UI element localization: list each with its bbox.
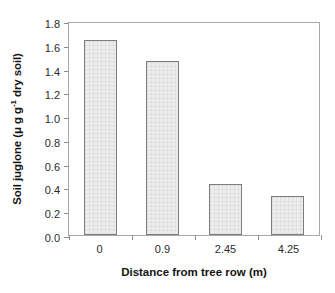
x-axis-tick-label: 0 <box>68 243 131 255</box>
y-axis-tick-label: 0.6 <box>45 161 60 173</box>
x-axis-tick <box>258 235 259 240</box>
y-axis-tick-label: 1.8 <box>45 18 60 30</box>
x-axis-tick <box>132 235 133 240</box>
x-axis-title: Distance from tree row (m) <box>68 266 320 278</box>
x-axis-tick <box>195 235 196 240</box>
y-axis-tick-label: 0.8 <box>45 137 60 149</box>
y-axis-tick-label: 0.4 <box>45 184 60 196</box>
x-axis-tick-label: 2.45 <box>194 243 257 255</box>
y-axis-title-exponent: -1 <box>9 100 18 107</box>
y-axis-tick-label: 1.4 <box>45 66 60 78</box>
x-axis-tick-labels: 00.92.454.25 <box>68 243 320 255</box>
y-axis-tick-label: 0.2 <box>45 208 60 220</box>
bar-slot <box>69 23 132 235</box>
x-axis-tick-label: 0.9 <box>131 243 194 255</box>
bar-2.45[interactable] <box>209 184 242 235</box>
y-axis-tick-label: 1.2 <box>45 89 60 101</box>
y-axis-title-prefix: Soil juglone ( <box>11 134 23 205</box>
y-axis-tick-label: 0.0 <box>45 232 60 244</box>
y-axis-title-suffix: dry soil) <box>11 53 23 100</box>
y-axis-tick-label: 1.6 <box>45 42 60 54</box>
x-axis-tick-label: 4.25 <box>257 243 320 255</box>
bar-4.25[interactable] <box>271 196 304 235</box>
bar-series <box>69 23 319 235</box>
bar-slot <box>194 23 257 235</box>
y-axis-title-text: Soil juglone (μ g g-1 dry soil) <box>11 53 23 205</box>
x-axis-tick <box>321 235 322 240</box>
bar-slot <box>257 23 320 235</box>
bar-0[interactable] <box>84 40 117 235</box>
bar-slot <box>132 23 195 235</box>
mu-symbol: μ <box>11 127 23 134</box>
y-axis-title: Soil juglone (μ g g-1 dry soil) <box>6 22 28 236</box>
y-axis-title-unit: g g <box>11 107 23 127</box>
bar-chart-figure: Soil juglone (μ g g-1 dry soil) 0.00.20.… <box>0 0 335 293</box>
bar-0.9[interactable] <box>146 61 179 235</box>
x-axis-tick <box>69 235 70 240</box>
plot-area: 0.00.20.40.60.81.01.21.41.61.8 <box>68 22 320 236</box>
y-axis-tick-label: 1.0 <box>45 113 60 125</box>
